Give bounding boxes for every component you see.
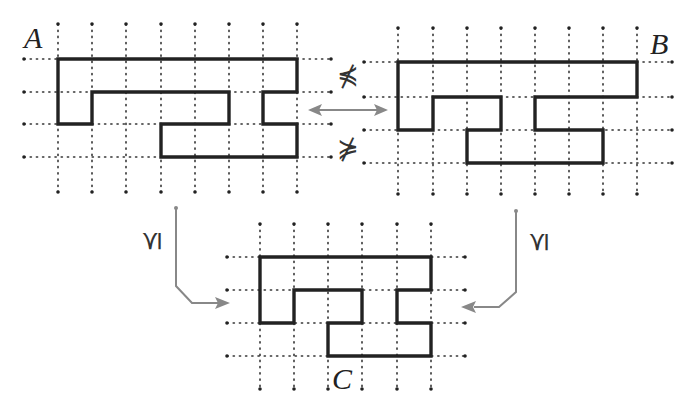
grid-a [22,22,333,194]
not-succeq-symbol-lower: ⋡ [337,133,359,163]
shape-b [398,62,637,163]
label-c: C [332,362,353,395]
shape-a [58,59,297,157]
preceq-symbol-right: ⪯ [523,231,553,253]
diagram-canvas: A B ⋠ [0,0,691,409]
arrow-b-to-c [461,209,518,313]
shape-c [260,257,431,356]
label-a: A [22,21,43,54]
grid-b [362,26,674,196]
not-preceq-symbol-upper: ⋠ [337,60,359,90]
double-arrow-a-b [308,104,388,116]
label-b: B [650,27,668,60]
preceq-symbol-left: ⪯ [136,230,166,252]
arrow-a-to-c [174,206,230,309]
